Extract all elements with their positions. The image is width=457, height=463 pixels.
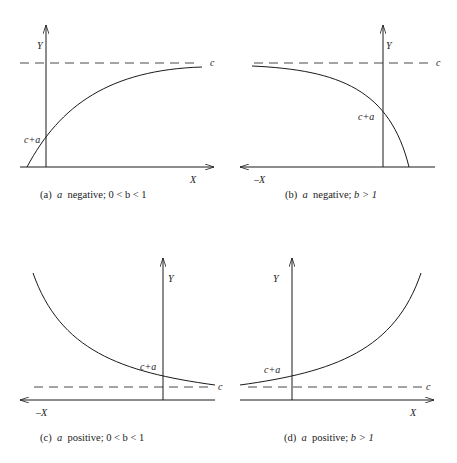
panel-c-intercept-label: c+a — [140, 362, 156, 372]
figure-canvas — [0, 0, 457, 463]
panel-c-x-label: –X — [36, 408, 47, 418]
panel-c-caption: (c) a positive; 0 < b < 1 — [40, 433, 144, 444]
panel-d-x-label: X — [410, 408, 416, 418]
panel-d-intercept-label: c+a — [264, 365, 280, 375]
panel-b-x-label: –X — [254, 175, 265, 185]
panel-c-plot — [20, 258, 215, 400]
panel-b-caption: (b) a negative; b > 1 — [285, 190, 377, 201]
panel-d-plot — [240, 258, 434, 400]
panel-b-curve — [252, 66, 409, 167]
panel-b-intercept-label: c+a — [358, 112, 374, 122]
panel-b-plot — [240, 25, 435, 167]
panel-d-y-label: Y — [273, 274, 279, 284]
panel-d-asymptote-label: c — [426, 382, 430, 392]
panel-a-caption: (a) a negative; 0 < b < 1 — [40, 190, 147, 201]
panel-a-x-label: X — [190, 175, 196, 185]
panel-c-asymptote-label: c — [218, 382, 222, 392]
panel-a-asymptote-label: c — [210, 58, 214, 68]
panel-b-y-label: Y — [386, 41, 392, 51]
panel-b-asymptote-label: c — [436, 58, 440, 68]
panel-d-caption: (d) a positive; b > 1 — [284, 433, 374, 444]
panel-a-curve — [27, 67, 202, 167]
panel-a-plot — [20, 25, 214, 167]
panel-a-y-label: Y — [37, 41, 43, 51]
panel-a-intercept-label: c+a — [24, 135, 40, 145]
panel-c-y-label: Y — [168, 274, 174, 284]
panel-c-curve — [33, 273, 215, 385]
